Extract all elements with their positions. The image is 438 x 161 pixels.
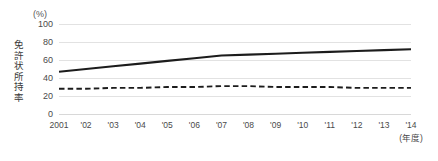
- x-axis-tick-label: '09: [261, 120, 291, 130]
- axis-baseline: [59, 114, 411, 115]
- series-layer: [59, 24, 411, 114]
- x-axis-tick-label: '03: [98, 120, 128, 130]
- y-axis-title-char: 状: [12, 61, 26, 72]
- x-axis-unit-label: (年度): [391, 133, 431, 143]
- y-axis-tick-label: 80: [27, 38, 53, 47]
- x-axis-tick-label: '07: [206, 120, 236, 130]
- series-line-dashed-series: [59, 86, 411, 89]
- y-axis-tick-label: 100: [27, 20, 53, 29]
- x-axis-tick-label: '14: [396, 120, 426, 130]
- y-axis-tick-label: 0: [27, 110, 53, 119]
- y-axis-title-char: 持: [12, 82, 26, 93]
- x-axis-tick-label: '13: [369, 120, 399, 130]
- x-axis-tick-label: '10: [288, 120, 318, 130]
- y-axis-title-char: 率: [12, 93, 26, 104]
- x-axis-tick-label: '06: [179, 120, 209, 130]
- x-axis-tick-label: '02: [71, 120, 101, 130]
- x-axis-tick-label: '05: [152, 120, 182, 130]
- line-chart: (%) 免 許 状 所 持 率 020406080100 2001'02'03'…: [0, 0, 438, 161]
- y-axis-tick-label: 40: [27, 74, 53, 83]
- x-axis-tick-label: 2001: [44, 120, 74, 130]
- y-axis-tick-label: 60: [27, 56, 53, 65]
- y-axis-title: 免 許 状 所 持 率: [12, 40, 26, 103]
- x-axis-tick-label: '11: [315, 120, 345, 130]
- plot-area: [59, 24, 411, 114]
- y-axis-unit-label: (%): [33, 9, 47, 19]
- y-axis-tick-label: 20: [27, 92, 53, 101]
- x-axis-tick-label: '08: [234, 120, 264, 130]
- x-axis-tick-label: '04: [125, 120, 155, 130]
- series-line-solid-series: [59, 49, 411, 71]
- y-axis-title-char: 免: [12, 40, 26, 51]
- x-axis-tick-label: '12: [342, 120, 372, 130]
